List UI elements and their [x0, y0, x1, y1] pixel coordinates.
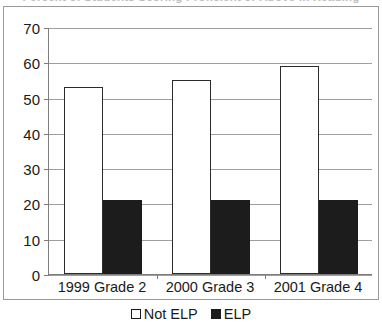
- x-axis-label-0: 1999 Grade 2: [58, 279, 147, 295]
- chart-title-text: Percent of Students Scoring Proficient o…: [22, 0, 359, 3]
- bar-chart: Percent of Students Scoring Proficient o…: [0, 0, 382, 332]
- y-axis-label-10: 10: [23, 231, 40, 248]
- open-square-icon: [131, 309, 141, 319]
- bar-elp-0: [103, 200, 142, 274]
- bar-not-elp-0: [64, 87, 103, 274]
- bar-not-elp-1: [172, 80, 211, 274]
- gridline-0: [49, 275, 372, 276]
- y-tick-mark-0: [44, 275, 49, 276]
- y-axis-label-60: 60: [23, 55, 40, 72]
- plot-area: 010203040506070: [48, 28, 372, 275]
- chart-outer-frame: 010203040506070 1999 Grade 22000 Grade 3…: [3, 6, 379, 300]
- legend-label: ELP: [224, 306, 251, 322]
- x-axis-label-1: 2000 Grade 3: [166, 279, 255, 295]
- y-axis-label-0: 0: [32, 267, 40, 284]
- legend-entry-not-elp: Not ELP: [131, 306, 198, 322]
- filled-square-icon: [211, 309, 221, 319]
- bar-not-elp-2: [280, 66, 319, 274]
- legend-label: Not ELP: [144, 306, 198, 322]
- y-axis-label-40: 40: [23, 125, 40, 142]
- y-axis-label-30: 30: [23, 161, 40, 178]
- chart-legend: Not ELPELP: [0, 306, 382, 322]
- y-axis-label-20: 20: [23, 196, 40, 213]
- y-axis-label-70: 70: [23, 20, 40, 37]
- bar-elp-2: [319, 200, 358, 274]
- bar-elp-1: [211, 200, 250, 274]
- x-axis-labels: 1999 Grade 22000 Grade 32001 Grade 4: [48, 279, 372, 301]
- y-axis-label-50: 50: [23, 90, 40, 107]
- bars-layer: [49, 28, 372, 274]
- legend-entry-elp: ELP: [211, 306, 251, 322]
- x-axis-label-2: 2001 Grade 4: [274, 279, 363, 295]
- chart-title-clipped: Percent of Students Scoring Proficient o…: [0, 0, 382, 5]
